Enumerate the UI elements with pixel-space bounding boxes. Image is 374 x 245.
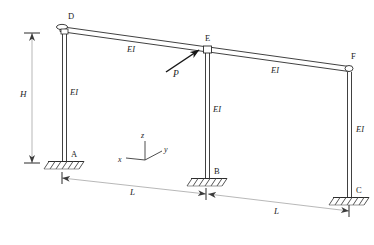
joint-label-C: C: [356, 186, 362, 195]
figure-canvas: D E F A B C EI EI EI EI EI P H L L x y z: [0, 0, 374, 245]
joint-marker-D: [57, 24, 69, 34]
stiffness-label-column-AD: EI: [70, 88, 78, 97]
joint-marker-E: [204, 46, 212, 53]
joint-label-E: E: [205, 34, 210, 43]
joint-label-D: D: [68, 12, 74, 21]
axis-label-x: x: [118, 156, 122, 164]
stiffness-label-column-CF: EI: [356, 125, 364, 134]
stiffness-label-beam-EF: EI: [271, 66, 279, 75]
load-arrow-P: [166, 50, 199, 72]
dimension-label-L-left: L: [130, 188, 135, 197]
axis-label-z: z: [141, 132, 144, 140]
axis-y-line: [145, 151, 162, 160]
dimension-label-H: H: [20, 90, 27, 99]
stiffness-label-column-BE: EI: [213, 105, 221, 114]
joint-label-A: A: [71, 150, 77, 159]
column-BE: [206, 52, 210, 178]
load-label-P: P: [173, 70, 179, 80]
stiffness-label-beam-DE: EI: [127, 45, 135, 54]
dimension-label-L-right: L: [274, 207, 279, 216]
support-A: [44, 162, 84, 170]
axis-x-line: [126, 158, 145, 160]
joint-label-B: B: [214, 167, 220, 176]
support-C: [329, 198, 369, 206]
coordinate-axes: [126, 141, 162, 160]
joint-marker-F: [345, 66, 353, 72]
frame-diagram-svg: [0, 0, 374, 245]
axis-label-y: y: [164, 146, 168, 154]
column-CF: [348, 72, 352, 197]
column-AD: [63, 32, 67, 161]
joint-label-F: F: [351, 52, 356, 61]
support-B: [187, 179, 227, 187]
